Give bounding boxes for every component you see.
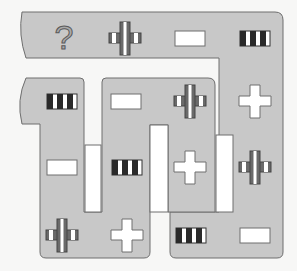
slot-gap-right xyxy=(216,135,233,212)
puzzle-cell-1-1 question-mark-icon: ? xyxy=(55,18,74,56)
question-mark-icon: ? xyxy=(55,18,74,56)
puzzle-cell-2-2 white-rectangle-icon xyxy=(111,94,141,109)
puzzle-cell-1-4 black-white-bars-icon xyxy=(240,31,270,46)
puzzle-cell-4-3 black-white-bars-icon xyxy=(176,228,206,243)
slot-gap-left xyxy=(85,145,101,212)
puzzle-cell-3-2 black-white-bars-icon xyxy=(112,160,142,175)
puzzle-canvas: ? xyxy=(0,0,297,271)
puzzle-cell-3-1 white-rectangle-icon xyxy=(47,160,77,175)
puzzle-cell-1-3 white-rectangle-icon xyxy=(175,31,205,46)
puzzle-cell-2-1 black-white-bars-icon xyxy=(47,94,77,109)
puzzle-cell-4-4 white-rectangle-icon xyxy=(240,228,270,243)
slot-gap-middle xyxy=(150,125,168,212)
